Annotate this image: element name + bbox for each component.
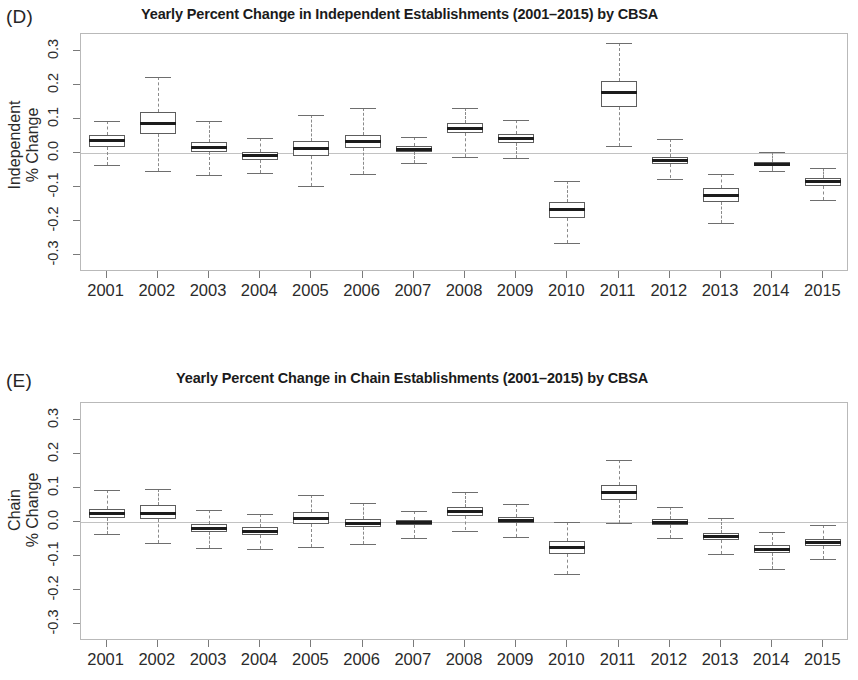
x-axis-tick: [618, 640, 619, 647]
y-axis-tick: [73, 220, 80, 221]
whisker-upper: [823, 168, 824, 178]
y-axis-tick: [73, 84, 80, 85]
x-axis-tick: [566, 640, 567, 647]
boxplot-2015: [81, 403, 847, 639]
median-line: [805, 541, 841, 544]
y-axis-tick: [73, 555, 80, 556]
y-axis-label-e: Chain % Change: [6, 410, 42, 610]
cap-lower: [810, 559, 836, 560]
y-axis-tick: [73, 186, 80, 187]
x-axis-tick: [413, 640, 414, 647]
y-axis-tick: [73, 152, 80, 153]
cap-lower: [810, 200, 836, 201]
x-axis-tick: [106, 640, 107, 647]
x-axis-tick-label: 2015: [792, 650, 852, 669]
y-axis-tick: [73, 50, 80, 51]
x-axis-tick: [720, 640, 721, 647]
y-axis-tick: [73, 419, 80, 420]
x-axis-tick: [259, 640, 260, 647]
x-axis-tick: [362, 640, 363, 647]
y-axis-tick: [73, 589, 80, 590]
y-axis-tick: [73, 623, 80, 624]
x-axis-tick: [362, 271, 363, 278]
panel-title-e: Yearly Percent Change in Chain Establish…: [176, 370, 648, 386]
x-axis-tick: [515, 271, 516, 278]
boxplot-2015: [81, 34, 847, 270]
median-line: [805, 180, 841, 183]
whisker-lower: [823, 546, 824, 560]
plot-area-chain: [80, 402, 848, 640]
y-axis-label-d: Independent % Change: [6, 45, 42, 245]
y-axis-tick: [73, 521, 80, 522]
cap-upper: [810, 525, 836, 526]
x-axis-tick: [157, 640, 158, 647]
x-axis-tick: [822, 271, 823, 278]
x-axis-tick: [669, 640, 670, 647]
y-axis-label-e-line1: Chain: [6, 489, 23, 531]
x-axis-tick: [515, 640, 516, 647]
y-axis-label-d-line1: Independent: [6, 101, 23, 190]
x-axis-tick: [822, 640, 823, 647]
plot-area-independent: [80, 33, 848, 271]
x-axis-tick: [720, 271, 721, 278]
x-axis-tick: [106, 271, 107, 278]
x-axis-tick: [771, 271, 772, 278]
x-axis-tick-label: 2015: [792, 281, 852, 300]
x-axis-tick: [310, 640, 311, 647]
x-axis-tick: [310, 271, 311, 278]
y-axis-tick: [73, 118, 80, 119]
panel-chain: (E) Yearly Percent Change in Chain Estab…: [0, 340, 858, 680]
x-axis-tick: [259, 271, 260, 278]
y-axis-tick: [73, 453, 80, 454]
x-axis-tick: [464, 271, 465, 278]
whisker-lower: [823, 186, 824, 199]
y-axis-tick: [73, 254, 80, 255]
whisker-upper: [823, 525, 824, 539]
panel-independent: (D) Yearly Percent Change in Independent…: [0, 0, 858, 340]
y-axis-tick-label: -0.3: [45, 233, 61, 273]
panel-letter-e: (E): [6, 370, 32, 392]
panel-title-d: Yearly Percent Change in Independent Est…: [141, 6, 658, 22]
x-axis-tick: [566, 271, 567, 278]
y-axis-tick: [73, 487, 80, 488]
x-axis-tick: [618, 271, 619, 278]
y-axis-tick-label: -0.3: [45, 602, 61, 642]
x-axis-tick: [208, 271, 209, 278]
x-axis-tick: [413, 271, 414, 278]
y-axis-label-e-line2: % Change: [24, 410, 42, 610]
x-axis-tick: [669, 271, 670, 278]
x-axis-tick: [157, 271, 158, 278]
x-axis-tick: [208, 640, 209, 647]
panel-letter-d: (D): [6, 6, 33, 28]
cap-upper: [810, 168, 836, 169]
x-axis-tick: [771, 640, 772, 647]
x-axis-tick: [464, 640, 465, 647]
y-axis-label-d-line2: % Change: [24, 45, 42, 245]
